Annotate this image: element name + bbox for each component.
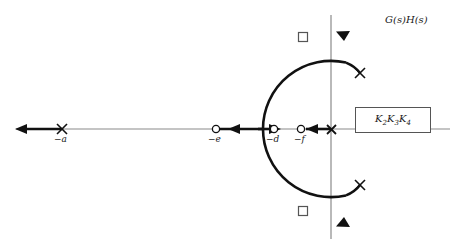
zero-d-icon xyxy=(270,125,277,132)
gain-box: K2K3K4 xyxy=(355,107,431,133)
breakaway-square-upper-icon xyxy=(299,33,308,42)
gain-box-label: K2K3K4 xyxy=(375,113,411,127)
branch-end-lower-icon xyxy=(355,180,365,190)
label-minus-e: −e xyxy=(208,134,221,144)
label-minus-d: −d xyxy=(266,134,279,144)
gain-k4: K4 xyxy=(399,113,411,124)
locus-arrow-toward-f xyxy=(306,124,318,134)
label-minus-a: −a xyxy=(54,134,67,144)
locus-arrow-toward-e xyxy=(228,124,240,134)
gain-k2: K2 xyxy=(375,113,387,124)
zero-f-icon xyxy=(297,125,304,132)
root-locus-figure: −a −e −d −f G(s)H(s) K2K3K4 xyxy=(0,0,457,249)
breakaway-square-lower-icon xyxy=(299,207,308,216)
gain-k3: K3 xyxy=(387,113,399,124)
label-minus-f: −f xyxy=(294,134,305,144)
locus-arrow-lower-arc xyxy=(336,217,350,227)
locus-circle-upper xyxy=(263,61,346,129)
locus-arrow-upper-arc xyxy=(336,31,350,41)
branch-end-upper-icon xyxy=(355,68,365,78)
locus-arrow-left xyxy=(15,124,27,134)
transfer-function-label: G(s)H(s) xyxy=(385,14,428,25)
zero-e-icon xyxy=(212,125,219,132)
